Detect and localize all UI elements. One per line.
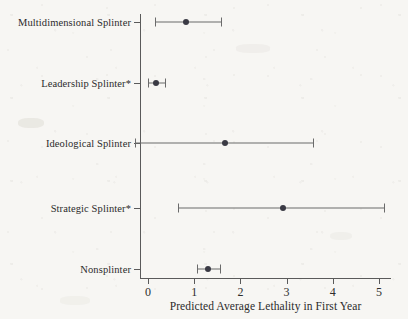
x-tick-label-4: 4 xyxy=(318,285,348,300)
confidence-interval-cap-1-high xyxy=(165,79,166,88)
confidence-interval-cap-0-low xyxy=(155,18,156,27)
x-tick-5 xyxy=(379,279,380,284)
point-estimate-0 xyxy=(183,19,189,25)
confidence-interval-cap-2-low xyxy=(135,139,136,148)
confidence-interval-cap-4-low xyxy=(197,265,198,274)
confidence-interval-cap-2-high xyxy=(313,139,314,148)
y-tick-3 xyxy=(134,208,140,209)
category-label-2: Ideological Splinter xyxy=(46,138,131,149)
point-estimate-1 xyxy=(153,80,159,86)
point-estimate-2 xyxy=(222,140,228,146)
category-label-0: Multidimensional Splinter xyxy=(18,17,131,28)
y-tick-0 xyxy=(134,22,140,23)
x-tick-label-3: 3 xyxy=(272,285,302,300)
x-tick-label-5: 5 xyxy=(364,285,394,300)
x-tick-4 xyxy=(333,279,334,284)
confidence-interval-cap-3-low xyxy=(178,204,179,213)
confidence-interval-cap-0-high xyxy=(221,18,222,27)
confidence-interval-cap-3-high xyxy=(384,204,385,213)
y-tick-1 xyxy=(134,83,140,84)
x-tick-label-0: 0 xyxy=(133,285,163,300)
category-label-4: Nonsplinter xyxy=(80,264,131,275)
plot-area: 012345 Multidimensional SplinterLeadersh… xyxy=(0,0,408,319)
category-label-3: Strategic Splinter* xyxy=(51,203,131,214)
x-tick-label-2: 2 xyxy=(225,285,255,300)
x-tick-0 xyxy=(148,279,149,284)
dot-and-whisker-chart: 012345 Multidimensional SplinterLeadersh… xyxy=(0,0,408,319)
x-tick-3 xyxy=(287,279,288,284)
x-tick-1 xyxy=(194,279,195,284)
confidence-interval-cap-1-low xyxy=(148,79,149,88)
y-tick-4 xyxy=(134,269,140,270)
x-tick-2 xyxy=(240,279,241,284)
category-label-1: Leadership Splinter* xyxy=(41,78,131,89)
x-tick-label-1: 1 xyxy=(179,285,209,300)
y-axis-spine xyxy=(140,14,141,279)
confidence-interval-cap-4-high xyxy=(220,265,221,274)
point-estimate-4 xyxy=(205,266,211,272)
x-axis-label: Predicted Average Lethality in First Yea… xyxy=(140,300,391,312)
point-estimate-3 xyxy=(280,205,286,211)
x-axis-spine xyxy=(140,278,391,279)
